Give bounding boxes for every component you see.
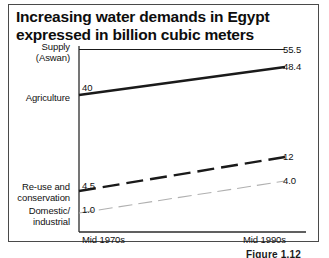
end-value-reuse: 12 bbox=[283, 152, 293, 162]
start-value-reuse: 4.5 bbox=[82, 181, 95, 191]
figure-caption: Figure 1.12 bbox=[246, 249, 326, 258]
x-axis-label-right: Mid 1990s bbox=[243, 235, 286, 245]
series-line-agriculture bbox=[79, 67, 285, 95]
series-label-reuse: Re-use and conservation bbox=[0, 182, 70, 203]
series-label-domestic: Domestic/ industrial bbox=[4, 206, 70, 227]
end-value-supply: 55.5 bbox=[283, 45, 301, 55]
end-value-domestic: 4.0 bbox=[283, 176, 296, 186]
end-value-agriculture: 48.4 bbox=[283, 62, 301, 72]
start-value-agriculture: 40 bbox=[82, 83, 92, 93]
x-axis-label-left: Mid 1970s bbox=[82, 235, 125, 245]
start-value-domestic: 1.0 bbox=[82, 205, 95, 215]
series-label-supply: Supply (Aswan) bbox=[8, 42, 70, 63]
figure-container: Increasing water demands in Egypt expres… bbox=[0, 0, 329, 258]
series-label-agriculture: Agriculture bbox=[4, 93, 70, 104]
series-line-reuse bbox=[79, 157, 285, 191]
